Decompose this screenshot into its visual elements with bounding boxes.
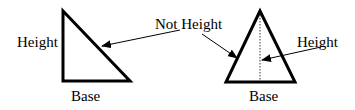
left-base-label: Base bbox=[71, 89, 100, 104]
not-height-label: Not Height bbox=[155, 17, 222, 32]
left-height-label: Height bbox=[17, 35, 58, 50]
arrow-not-height-right bbox=[202, 34, 237, 58]
arrow-not-height-left bbox=[102, 30, 180, 46]
isosceles-triangle-right bbox=[226, 11, 295, 82]
right-triangle-left bbox=[63, 11, 130, 81]
right-base-label: Base bbox=[249, 89, 278, 104]
right-height-label: Height bbox=[297, 35, 338, 50]
